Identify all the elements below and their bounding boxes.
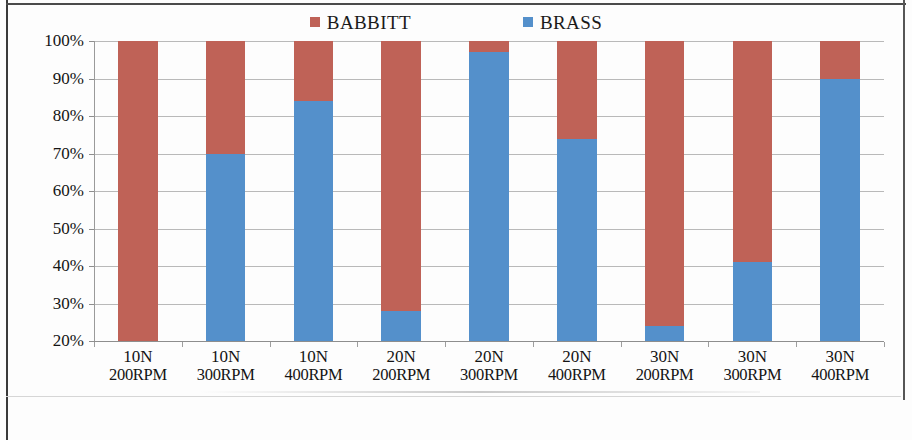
bar-slot [270,41,358,342]
x-axis-label-load: 10N [182,348,270,365]
bar-slot [182,41,270,342]
square-marker [523,17,533,27]
y-axis-tick-label: 40% [53,257,84,274]
x-axis-category-label: 30N200RPM [621,348,709,396]
x-axis-label-speed: 200RPM [621,367,709,384]
bar-slot [445,41,533,342]
bar-segment-brass[interactable] [645,326,685,341]
x-axis-label-speed: 200RPM [357,367,445,384]
y-axis-tick-label: 100% [44,32,84,49]
bar-segment-brass[interactable] [820,79,860,342]
square-marker [310,17,320,27]
x-axis-category-label: 30N300RPM [708,348,796,396]
stacked-bar[interactable] [557,41,597,341]
bar-segment-brass[interactable] [557,139,597,342]
x-axis-tick [621,342,622,347]
bar-segment-babbitt[interactable] [820,41,860,79]
x-axis-label-speed: 400RPM [796,367,884,384]
x-axis-tick [182,342,183,347]
bar-segment-babbitt[interactable] [469,41,509,52]
stacked-bar[interactable] [645,41,685,341]
stacked-bar[interactable] [118,41,158,341]
y-axis-tick-label: 30% [53,295,84,312]
bar-series-group [94,41,884,342]
x-axis-category-label: 20N200RPM [357,348,445,396]
x-axis-category-label: 10N400RPM [270,348,358,396]
x-axis-label-load: 10N [270,348,358,365]
x-axis-label-speed: 300RPM [182,367,270,384]
x-axis-labels: 10N200RPM10N300RPM10N400RPM20N200RPM20N3… [94,348,884,396]
bar-slot [357,41,445,342]
x-axis-label-speed: 400RPM [533,367,621,384]
plot-area [94,41,884,342]
stacked-bar[interactable] [381,41,421,341]
x-axis-label-speed: 300RPM [445,367,533,384]
x-axis-label-load: 30N [796,348,884,365]
x-axis-category-label: 10N300RPM [182,348,270,396]
bar-slot [94,41,182,342]
bar-segment-babbitt[interactable] [206,41,246,154]
bar-segment-brass[interactable] [469,52,509,341]
y-axis-labels: 100%90%80%70%60%50%40%30%20% [0,41,84,342]
x-axis-tick [884,342,885,347]
x-axis-category-label: 20N400RPM [533,348,621,396]
y-axis-tick-label: 20% [53,332,84,349]
bar-segment-brass[interactable] [294,101,334,341]
x-axis-label-speed: 200RPM [94,367,182,384]
x-axis-label-load: 20N [357,348,445,365]
bar-segment-babbitt[interactable] [381,41,421,311]
legend-entry-babbitt[interactable]: BABBITT [310,13,411,32]
x-axis-label-load: 30N [621,348,709,365]
bar-segment-babbitt[interactable] [118,41,158,341]
x-axis-tick [94,342,95,347]
x-axis-category-label: 30N400RPM [796,348,884,396]
bar-segment-babbitt[interactable] [733,41,773,262]
x-axis-tick [357,342,358,347]
legend-label: BABBITT [327,13,411,32]
bar-slot [796,41,884,342]
y-axis-tick-label: 60% [53,182,84,199]
x-axis-tick [270,342,271,347]
bar-slot [621,41,709,342]
x-axis-tick [796,342,797,347]
x-axis-label-load: 30N [708,348,796,365]
x-axis-label-load: 10N [94,348,182,365]
x-axis-label-speed: 400RPM [270,367,358,384]
stacked-bar[interactable] [469,41,509,341]
bar-segment-babbitt[interactable] [645,41,685,326]
chart-legend: BABBITTBRASS [0,10,912,34]
stacked-bar[interactable] [820,41,860,341]
x-axis-category-label: 20N300RPM [445,348,533,396]
stacked-bar-chart: BABBITTBRASS 100%90%80%70%60%50%40%30%20… [0,0,912,400]
bar-slot [533,41,621,342]
x-axis-category-label: 10N200RPM [94,348,182,396]
stacked-bar[interactable] [206,41,246,341]
bar-segment-brass[interactable] [381,311,421,341]
bar-segment-brass[interactable] [206,154,246,342]
bar-slot [708,41,796,342]
scanned-page: BABBITTBRASS 100%90%80%70%60%50%40%30%20… [0,0,912,440]
x-axis-label-load: 20N [445,348,533,365]
bar-segment-brass[interactable] [733,262,773,341]
x-axis-label-speed: 300RPM [708,367,796,384]
stacked-bar[interactable] [733,41,773,341]
x-axis-tick [533,342,534,347]
y-axis-tick-label: 50% [53,220,84,237]
x-axis-tick [708,342,709,347]
legend-entry-brass[interactable]: BRASS [523,13,602,32]
x-axis-label-load: 20N [533,348,621,365]
stacked-bar[interactable] [294,41,334,341]
x-axis-tick [445,342,446,347]
legend-label: BRASS [540,13,602,32]
bar-segment-babbitt[interactable] [294,41,334,101]
y-axis-tick-label: 90% [53,70,84,87]
y-axis-tick-label: 70% [53,145,84,162]
y-axis-tick-label: 80% [53,107,84,124]
bar-segment-babbitt[interactable] [557,41,597,139]
